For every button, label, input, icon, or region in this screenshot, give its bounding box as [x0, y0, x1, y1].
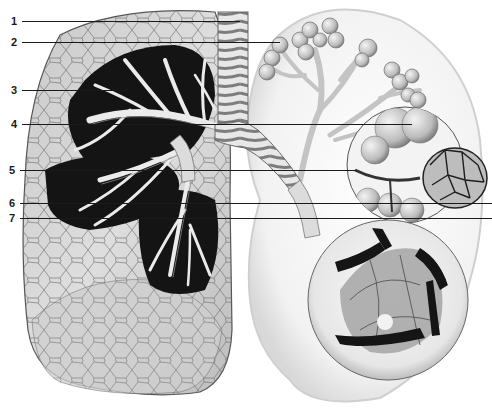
inset-alveolus — [308, 220, 468, 380]
leader-line — [22, 21, 240, 22]
callout-number: 4 — [9, 119, 19, 130]
callout-number: 1 — [9, 16, 19, 27]
callout-number: 2 — [9, 37, 19, 48]
leader-line — [20, 203, 492, 204]
leader-line — [22, 42, 280, 43]
callout-number: 3 — [9, 85, 19, 96]
leader-line — [20, 218, 492, 219]
callout-number: 6 — [7, 198, 17, 209]
leader-line — [20, 170, 356, 171]
callout-number: 7 — [7, 213, 17, 224]
leader-line — [22, 90, 130, 91]
capillary-network — [423, 148, 487, 208]
callout-number: 5 — [7, 165, 17, 176]
lung-illustration — [0, 0, 492, 414]
leader-line — [22, 124, 412, 125]
